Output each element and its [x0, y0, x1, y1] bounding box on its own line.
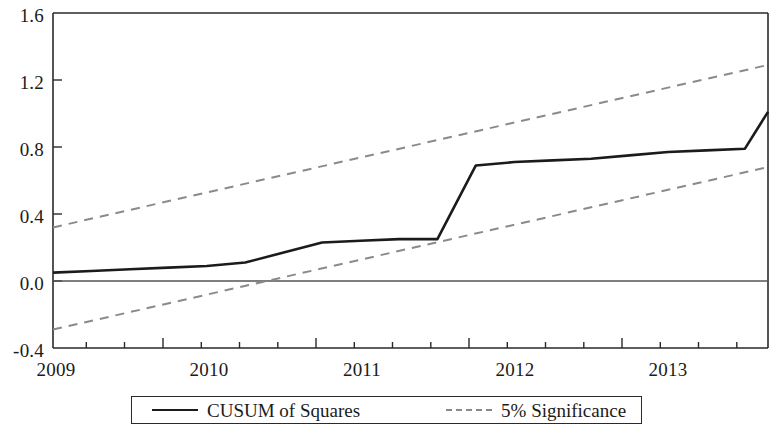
legend-swatch-solid-line — [152, 409, 198, 411]
cusum-of-squares-chart: 1.6 1.2 0.8 0.4 0.0 -0.4 2009 2010 2011 … — [0, 0, 775, 428]
x-tick-label: 2010 — [174, 360, 244, 379]
x-axis-ticks — [86, 338, 737, 348]
x-tick-label: 2013 — [633, 360, 703, 379]
y-tick-label: 1.6 — [0, 6, 44, 25]
significance-upper-bound — [53, 65, 768, 227]
chart-legend: CUSUM of Squares 5% Significance — [131, 396, 642, 424]
y-tick-label: -0.4 — [0, 341, 44, 360]
x-tick-label: 2011 — [327, 360, 397, 379]
x-tick-label: 2009 — [21, 360, 91, 379]
legend-label-significance: 5% Significance — [501, 401, 626, 420]
significance-lower-bound — [53, 167, 768, 329]
y-axis-ticks — [53, 80, 62, 281]
plot-frame — [53, 13, 768, 348]
legend-label-cusum: CUSUM of Squares — [207, 401, 360, 420]
legend-item-significance: 5% Significance — [446, 397, 626, 423]
legend-item-cusum: CUSUM of Squares — [152, 397, 360, 423]
y-tick-label: 1.2 — [0, 73, 44, 92]
legend-swatch-dashed-line — [446, 409, 492, 411]
cusum-of-squares-line — [53, 112, 768, 273]
x-tick-label: 2012 — [480, 360, 550, 379]
y-tick-label: 0.4 — [0, 207, 44, 226]
y-tick-label: 0.0 — [0, 274, 44, 293]
y-tick-label: 0.8 — [0, 140, 44, 159]
